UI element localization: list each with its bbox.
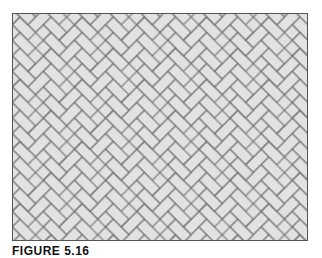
figure-caption: FIGURE 5.16 bbox=[12, 245, 90, 257]
herringbone-pattern-graphic bbox=[13, 14, 307, 240]
herringbone-pattern-figure bbox=[12, 13, 308, 241]
